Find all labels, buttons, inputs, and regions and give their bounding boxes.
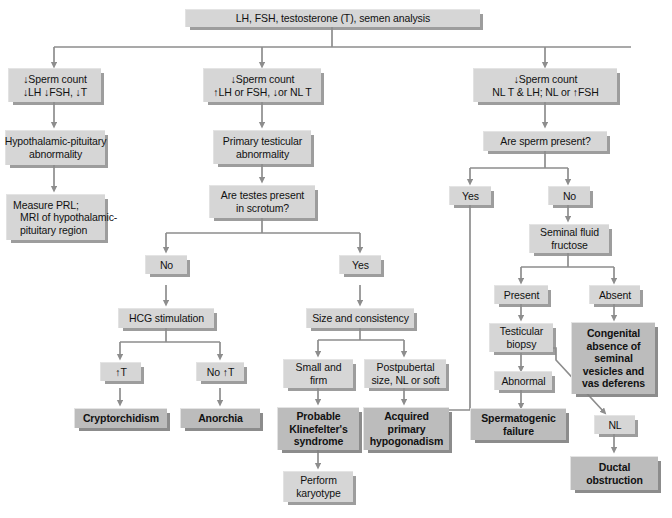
node-are-testes-present[interactable]: Are testes present in scrotum?	[209, 185, 315, 218]
node-acquired-primary-hypogonadism[interactable]: Acquired primary hypogonadism	[363, 407, 449, 450]
node-high-gonadotropins-line2: ↑LH or FSH, ↓or NL T	[213, 86, 311, 99]
node-testes-line2: in scrotum?	[236, 202, 289, 215]
node-perform-karyotype[interactable]: Perform karyotype	[283, 471, 353, 502]
node-seminal-line2: fructose	[551, 239, 588, 252]
node-measure-prl-mri[interactable]: Measure PRL; MRI of hypothalamic- pituit…	[6, 194, 105, 240]
node-cryptorchidism[interactable]: Cryptorchidism	[74, 408, 167, 428]
node-small-and-firm[interactable]: Small and firm	[283, 359, 353, 388]
node-postpubertal-size[interactable]: Postpubertal size, NL or soft	[364, 359, 446, 388]
node-t-rises-label: ↑T	[115, 366, 126, 379]
node-acquired-line3: hypogonadism	[370, 435, 443, 448]
node-hypothalamic-pituitary-abnormality[interactable]: Hypothalamic-pituitary abnormality	[5, 130, 105, 165]
node-congenital-line1: Congenital	[587, 327, 640, 340]
node-sperm-present-label: Are sperm present?	[500, 135, 590, 148]
node-low-gonadotropins-line1: ↓Sperm count	[23, 73, 87, 86]
node-size-and-consistency[interactable]: Size and consistency	[306, 308, 414, 328]
node-testes-no[interactable]: No	[145, 255, 187, 274]
node-testicular-biopsy[interactable]: Testicular biopsy	[489, 323, 553, 352]
node-size-label: Size and consistency	[312, 312, 409, 325]
node-small-firm-line1: Small and	[296, 361, 342, 374]
node-absent-label: Absent	[599, 289, 631, 302]
node-sperm-yes[interactable]: Yes	[449, 186, 491, 205]
node-are-sperm-present[interactable]: Are sperm present?	[483, 131, 607, 151]
node-spermfail-line2: failure	[503, 425, 534, 438]
node-prl-line2: MRI of hypothalamic-	[13, 211, 117, 224]
node-normal-t-lh[interactable]: ↓Sperm count NL T & LH; NL or ↑FSH	[473, 68, 617, 102]
node-spermfail-line1: Spermatogenic	[481, 412, 556, 425]
node-ductal-obstruction[interactable]: Ductal obstruction	[570, 456, 658, 490]
node-low-gonadotropins[interactable]: ↓Sperm count ↓LH ↓FSH, ↓T	[8, 68, 101, 102]
node-present-label: Present	[504, 289, 540, 302]
node-testes-line1: Are testes present	[221, 189, 304, 202]
node-high-gonadotropins-line1: ↓Sperm count	[231, 73, 295, 86]
node-congenital-line5: vas deferens	[582, 377, 645, 390]
node-postpub-line1: Postpubertal	[377, 361, 435, 374]
node-biopsy-line1: Testicular	[500, 325, 543, 338]
node-ductal-line2: obstruction	[586, 474, 643, 487]
node-biopsy-line2: biopsy	[507, 338, 537, 351]
node-probable-klinefelter-syndrome[interactable]: Probable Klinefelter's syndrome	[277, 407, 359, 450]
node-klinefelter-line2: Klinefelter's	[289, 423, 347, 436]
node-root[interactable]: LH, FSH, testosterone (T), semen analysi…	[185, 9, 480, 27]
node-sperm-no[interactable]: No	[548, 186, 590, 205]
node-klinefelter-line3: syndrome	[294, 435, 343, 448]
node-congenital-line4: vesicles and	[583, 365, 644, 378]
node-prl-line1: Measure PRL;	[13, 199, 79, 212]
node-fructose-absent[interactable]: Absent	[589, 285, 640, 304]
node-normal-t-lh-line1: ↓Sperm count	[514, 73, 578, 86]
node-low-gonadotropins-line2: ↓LH ↓FSH, ↓T	[23, 86, 87, 99]
node-testes-no-label: No	[160, 259, 173, 272]
node-hcg-label: HCG stimulation	[129, 312, 204, 325]
node-anorchia-label: Anorchia	[198, 412, 243, 425]
node-high-gonadotropins[interactable]: ↓Sperm count ↑LH or FSH, ↓or NL T	[203, 68, 321, 102]
node-abnormal-label: Abnormal	[501, 375, 545, 388]
node-hp-line1: Hypothalamic-pituitary	[5, 135, 107, 148]
node-hp-line2: abnormality	[29, 148, 82, 161]
node-root-line1: LH, FSH, testosterone (T), semen analysi…	[236, 12, 430, 25]
node-sperm-yes-label: Yes	[462, 190, 479, 203]
node-hcg-stimulation[interactable]: HCG stimulation	[118, 308, 214, 328]
node-sperm-no-label: No	[563, 190, 576, 203]
node-cryptorchidism-label: Cryptorchidism	[83, 412, 159, 425]
node-congenital-absence-vas-deferens[interactable]: Congenital absence of seminal vesicles a…	[571, 322, 655, 394]
node-fructose-present[interactable]: Present	[494, 285, 548, 304]
node-postpub-line2: size, NL or soft	[371, 374, 439, 387]
node-acquired-line1: Acquired	[384, 410, 429, 423]
node-pta-line2: abnormality	[236, 148, 289, 161]
node-karyotype-line1: Perform	[300, 474, 337, 487]
node-klinefelter-line1: Probable	[296, 410, 340, 423]
node-prl-line3: pituitary region	[13, 224, 87, 237]
node-karyotype-line2: karyotype	[296, 487, 341, 500]
node-no-t-rise[interactable]: No ↑T	[196, 362, 244, 381]
node-no-t-rise-label: No ↑T	[207, 366, 235, 379]
flowchart-canvas: LH, FSH, testosterone (T), semen analysi…	[0, 0, 672, 518]
node-biopsy-nl[interactable]: NL	[594, 415, 635, 434]
node-ductal-line1: Ductal	[599, 461, 631, 474]
node-t-rises[interactable]: ↑T	[100, 362, 141, 381]
node-anorchia[interactable]: Anorchia	[180, 408, 260, 428]
node-acquired-line2: primary	[388, 423, 426, 436]
node-testes-yes[interactable]: Yes	[339, 255, 381, 274]
node-seminal-fluid-fructose[interactable]: Seminal fluid fructose	[529, 224, 609, 253]
node-spermatogenic-failure[interactable]: Spermatogenic failure	[470, 408, 566, 440]
node-pta-line1: Primary testicular	[223, 135, 302, 148]
node-congenital-line2: absence of	[587, 340, 641, 353]
node-testes-yes-label: Yes	[352, 259, 369, 272]
node-small-firm-line2: firm	[310, 374, 327, 387]
node-normal-t-lh-line2: NL T & LH; NL or ↑FSH	[492, 86, 598, 99]
node-congenital-line3: seminal	[594, 352, 632, 365]
node-nl-label: NL	[608, 419, 621, 432]
node-seminal-line1: Seminal fluid	[540, 226, 599, 239]
node-biopsy-abnormal[interactable]: Abnormal	[494, 371, 552, 390]
node-primary-testicular-abnormality[interactable]: Primary testicular abnormality	[213, 130, 311, 164]
